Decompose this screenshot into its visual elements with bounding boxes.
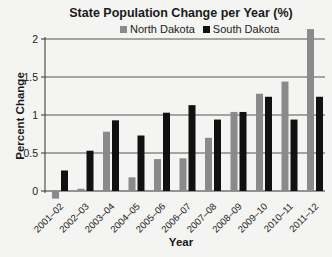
bar-north-dakota: [282, 82, 289, 191]
bar-south-dakota: [265, 97, 272, 191]
bar-south-dakota: [214, 120, 221, 191]
bar-north-dakota: [205, 138, 212, 191]
y-tick-label: 0.5: [23, 147, 38, 159]
bar-north-dakota: [103, 132, 110, 191]
bar-south-dakota: [112, 120, 119, 191]
plot-area: 00.511.522001–022002–032003–042004–05200…: [0, 0, 332, 257]
y-tick-label: 1: [32, 109, 38, 121]
bar-north-dakota: [78, 189, 85, 191]
bar-north-dakota: [231, 112, 238, 191]
bar-south-dakota: [316, 97, 323, 191]
bar-south-dakota: [189, 105, 196, 191]
bar-north-dakota: [180, 158, 187, 191]
bar-north-dakota: [307, 29, 314, 191]
bar-south-dakota: [163, 113, 170, 191]
y-tick-label: 2: [32, 33, 38, 45]
bar-north-dakota: [154, 159, 161, 191]
bar-south-dakota: [240, 112, 247, 191]
y-tick-label: 0: [32, 185, 38, 197]
y-tick-label: 1.5: [23, 71, 38, 83]
bar-south-dakota: [87, 151, 94, 191]
bar-south-dakota: [291, 120, 298, 191]
bar-south-dakota: [61, 170, 68, 191]
bar-north-dakota: [256, 94, 263, 191]
bar-north-dakota: [129, 177, 136, 191]
bar-north-dakota: [52, 191, 59, 199]
bar-south-dakota: [138, 136, 145, 191]
